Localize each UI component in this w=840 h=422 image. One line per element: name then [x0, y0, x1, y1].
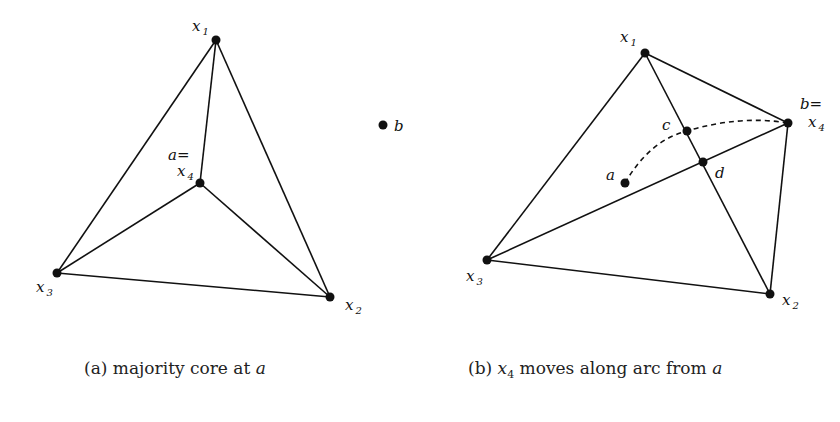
caption-b: (b) x4 moves along arc from a — [468, 358, 722, 381]
point-x2 — [326, 293, 335, 302]
label-x4: x4 — [808, 113, 825, 133]
point-d — [699, 158, 708, 167]
point-a-x4 — [196, 179, 205, 188]
caption-a-text: (a) majority core at — [84, 358, 256, 378]
edge-x3-x2 — [57, 273, 330, 297]
edge-x4-x2 — [770, 123, 788, 294]
caption-b-text: moves along arc from — [514, 358, 712, 378]
label-d: d — [715, 164, 725, 182]
edge-x1-x3 — [57, 40, 216, 273]
label-x2: x2 — [782, 291, 799, 311]
point-x1 — [212, 36, 221, 45]
caption-a-var: a — [256, 358, 266, 378]
figure-canvas: x1 x2 x3 a= x4 b x1 x2 x3 b= x4 a c d — [0, 0, 840, 340]
point-x2 — [766, 290, 775, 299]
point-b — [379, 121, 388, 130]
label-c: c — [662, 116, 671, 134]
point-c — [683, 127, 692, 136]
panel-b: x1 x2 x3 b= x4 a c d — [466, 28, 825, 311]
edge-x1-x3 — [487, 53, 645, 260]
point-x1 — [641, 49, 650, 58]
label-x1: x1 — [620, 28, 637, 48]
label-x3: x3 — [466, 267, 483, 287]
edge-x1-x2 — [645, 53, 770, 294]
label-x3: x3 — [36, 278, 53, 298]
caption-a: (a) majority core at a — [84, 358, 266, 378]
point-a — [621, 179, 630, 188]
edge-x4-x3 — [57, 183, 200, 273]
edge-x1-x4 — [645, 53, 788, 123]
edge-x4-x2 — [200, 183, 330, 297]
label-b-equals: b= — [800, 95, 822, 113]
point-x3 — [53, 269, 62, 278]
caption-b-var: x — [498, 358, 508, 378]
edge-x1-x2 — [216, 40, 330, 297]
point-x3 — [483, 256, 492, 265]
label-a: a — [606, 166, 615, 184]
label-b: b — [394, 117, 404, 135]
edge-x3-x2 — [487, 260, 770, 294]
label-x2: x2 — [345, 296, 362, 316]
label-x1: x1 — [192, 17, 209, 37]
edge-x3-x4 — [487, 123, 788, 260]
caption-b-prefix: (b) — [468, 358, 498, 378]
panel-a: x1 x2 x3 a= x4 b — [36, 17, 404, 316]
arc-a-to-x4 — [625, 120, 788, 183]
label-x4: x4 — [177, 162, 194, 182]
edge-x1-x4 — [200, 40, 216, 183]
point-b-x4 — [784, 119, 793, 128]
caption-b-var2: a — [712, 358, 722, 378]
